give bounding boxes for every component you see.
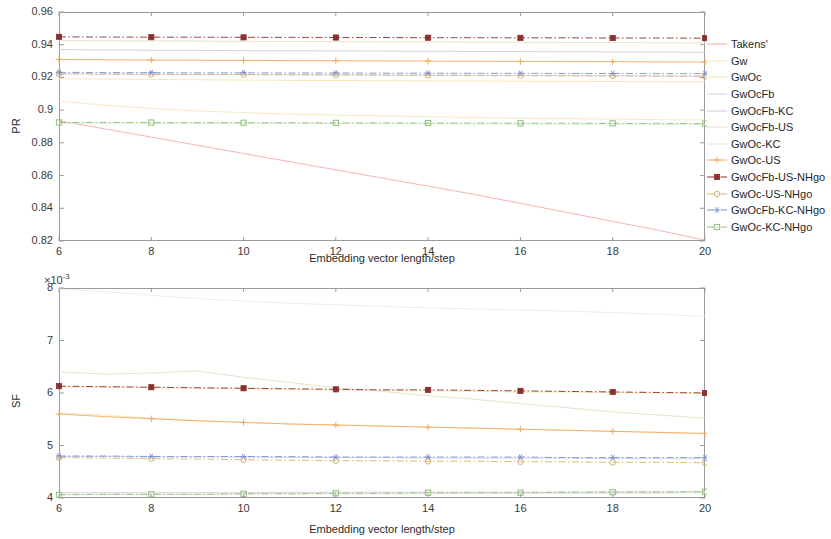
x-tick-label: 10 [224,502,264,514]
legend-item-gwoc-kc[interactable]: GwOc-KC [707,136,831,153]
y-axis-title-sf: SF [10,381,22,421]
legend-item-label: Takens' [731,38,768,50]
legend-item-label: GwOc-US [731,154,781,166]
legend-item-label: GwOc-KC-NHgo [731,221,812,233]
legend-line-sample [707,188,727,200]
x-tick-label: 6 [39,502,79,514]
legend-item-label: GwOc [731,71,762,83]
x-tick-label: 14 [408,502,448,514]
legend-item-gwoc[interactable]: GwOc [707,69,831,86]
legend-line-sample [707,88,727,100]
series-Takens' [59,289,705,316]
series-GwOc [59,79,705,82]
legend-line-sample [707,204,727,216]
legend-item-label: Gw [731,55,748,67]
legend-item-label: GwOcFb-US [731,121,793,133]
series-layer-sf [0,270,707,539]
legend: Takens'GwGwOcGwOcFbGwOcFb-KCGwOcFb-USGwO… [707,36,831,235]
legend-item-gwocfb-us[interactable]: GwOcFb-US [707,119,831,136]
x-axis-title-pr: Embedding vector length/step [242,252,522,264]
x-tick-label: 8 [131,245,171,257]
legend-item-label: GwOcFb-KC [731,105,793,117]
series-GwOcFb-US [59,41,705,43]
series-layer-pr [0,0,707,268]
x-tick-label: 18 [593,245,633,257]
series-GwOcFb-KC [59,50,705,53]
legend-item-gwocfb-us-nhgo[interactable]: GwOcFb-US-NHgo [707,169,831,186]
x-tick-label: 8 [131,502,171,514]
y-tick-label: 0.82 [3,234,53,246]
chart-panel-sf: 6810121416182045678 ×10-3 SF Embedding v… [0,270,707,539]
series-GwOcFb-KC-NHgo [56,453,707,460]
y-tick-label: 0.94 [3,38,53,50]
legend-line-sample [707,221,727,233]
y-tick-label: 0.92 [3,70,53,82]
legend-line-sample [707,38,727,50]
legend-line-sample [707,105,727,117]
legend-item-gwoc-us-nhgo[interactable]: GwOc-US-NHgo [707,185,831,202]
legend-item-gwoc-us[interactable]: GwOc-US [707,152,831,169]
chart-panel-pr: 681012141618200.820.840.860.880.90.920.9… [0,0,707,268]
legend-line-sample [707,138,727,150]
series-GwOc-KC-NHgo [56,120,707,126]
series-Takens' [59,121,705,240]
x-tick-label: 20 [685,502,725,514]
y-axis-exponent-sf: ×10-3 [44,272,70,286]
y-axis-title-pr: PR [10,106,22,146]
x-axis-title-sf: Embedding vector length/step [242,523,522,535]
y-tick-label: 5 [3,439,53,451]
legend-item-label: GwOc-KC [731,138,781,150]
x-tick-label: 16 [500,502,540,514]
y-tick-label: 7 [3,334,53,346]
legend-line-sample [707,121,727,133]
x-tick-label: 12 [316,502,356,514]
x-tick-label: 6 [39,245,79,257]
y-tick-label: 0.86 [3,169,53,181]
series-GwOcFb-US-NHgo [56,34,707,41]
legend-item-label: GwOcFb-KC-NHgo [731,204,825,216]
legend-item-gwocfb[interactable]: GwOcFb [707,86,831,103]
legend-item-gwocfb-kc[interactable]: GwOcFb-KC [707,102,831,119]
x-tick-label: 20 [685,245,725,257]
legend-item-gwocfb-kc-nhgo[interactable]: GwOcFb-KC-NHgo [707,202,831,219]
series-GwOc-KC [59,123,705,124]
legend-line-sample [707,171,727,183]
legend-line-sample [707,154,727,166]
legend-item-takens[interactable]: Takens' [707,36,831,53]
series-GwOc-US [56,56,707,65]
legend-line-sample [707,71,727,83]
series-GwOc-US [56,411,707,437]
legend-item-label: GwOcFb [731,88,774,100]
series-GwOcFb-US-NHgo [56,384,707,396]
legend-item-gw[interactable]: Gw [707,53,831,70]
series-GwOcFb-US [59,371,705,418]
legend-item-gwoc-kc-nhgo[interactable]: GwOc-KC-NHgo [707,219,831,236]
legend-line-sample [707,55,727,67]
y-tick-label: 0.84 [3,201,53,213]
y-tick-label: 0.96 [3,5,53,17]
legend-item-label: GwOcFb-US-NHgo [731,171,825,183]
series-GwOcFb-KC [59,492,705,493]
series-Gw [59,101,705,120]
figure-root: 681012141618200.820.840.860.880.90.920.9… [0,0,831,539]
x-tick-label: 18 [593,502,633,514]
y-tick-label: 4 [3,491,53,503]
legend-item-label: GwOc-US-NHgo [731,188,812,200]
